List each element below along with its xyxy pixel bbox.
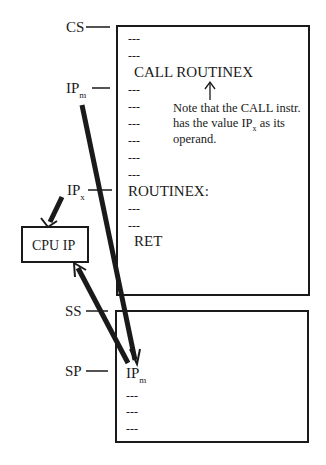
sp-label: SP	[65, 364, 82, 379]
code-line-5: ---	[128, 118, 140, 130]
code-line-3: ---	[128, 84, 140, 96]
code-line-6: ---	[128, 135, 140, 147]
note-line-3: operand.	[173, 132, 301, 147]
ret-instruction: RET	[134, 234, 162, 249]
cpu-ip-label: CPU IP	[32, 238, 75, 253]
code-line-4: ---	[128, 101, 140, 113]
cpu-ip-box: CPU IP	[21, 226, 89, 263]
code-line-1: ---	[128, 33, 140, 45]
code-line-7: ---	[128, 152, 140, 164]
stack-top-ipm: IPm	[126, 366, 146, 383]
code-line-9: ---	[128, 203, 140, 215]
ss-label: SS	[65, 304, 82, 319]
note-line-1: Note that the CALL instr.	[173, 101, 301, 116]
call-instruction: CALL ROUTINEX	[134, 65, 253, 80]
operand-note: Note that the CALL instr. has the value …	[173, 101, 301, 147]
ipx-label: IPx	[67, 183, 85, 200]
code-line-2: ---	[128, 50, 140, 62]
code-line-10: ---	[128, 220, 140, 232]
ipm-label: IPm	[66, 81, 86, 98]
stack-line-2: ---	[126, 406, 138, 418]
code-line-8: ---	[128, 169, 140, 181]
load-ipx-arrow-line	[50, 197, 62, 222]
routine-label: ROUTINEX:	[128, 184, 209, 199]
note-line-2: has the value IPx as its	[173, 116, 301, 133]
stack-line-3: ---	[126, 423, 138, 435]
stack-line-1: ---	[126, 390, 138, 402]
cs-label: CS	[66, 20, 84, 35]
